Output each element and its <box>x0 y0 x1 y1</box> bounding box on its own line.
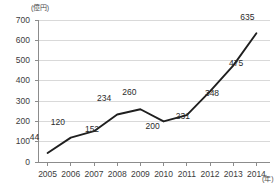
y-tick-label: 200 <box>4 116 30 126</box>
data-point-label: 120 <box>46 117 70 127</box>
data-point-label: 200 <box>141 121 165 131</box>
x-tick-label: 2009 <box>127 169 153 179</box>
data-point-label: 475 <box>224 58 248 68</box>
y-tick-label: 500 <box>4 55 30 65</box>
data-point-label: 44 <box>23 132 47 142</box>
y-tick-label: 600 <box>4 35 30 45</box>
data-point-label: 234 <box>92 93 116 103</box>
x-axis-unit-label: (年) <box>262 173 274 183</box>
data-series-line <box>48 33 257 153</box>
x-tick-label: 2010 <box>151 169 177 179</box>
x-tick-label: 2005 <box>35 169 61 179</box>
x-tick-label: 2012 <box>197 169 223 179</box>
x-tick-label: 2013 <box>220 169 246 179</box>
x-tick-label: 2006 <box>58 169 84 179</box>
data-point-label: 260 <box>117 87 141 97</box>
data-point-label: 231 <box>171 111 195 121</box>
x-tick-label: 2007 <box>81 169 107 179</box>
y-tick-label: 0 <box>4 157 30 167</box>
y-tick-label: 700 <box>4 15 30 25</box>
data-point-label: 348 <box>200 88 224 98</box>
data-point-label: 152 <box>80 124 104 134</box>
data-point-label: 635 <box>235 12 259 22</box>
x-tick-label: 2011 <box>174 169 200 179</box>
y-tick-label: 300 <box>4 96 30 106</box>
line-chart: (億円) 0100200300400500600700 200520062007… <box>0 0 280 188</box>
x-tick-label: 2008 <box>104 169 130 179</box>
y-tick-label: 400 <box>4 75 30 85</box>
